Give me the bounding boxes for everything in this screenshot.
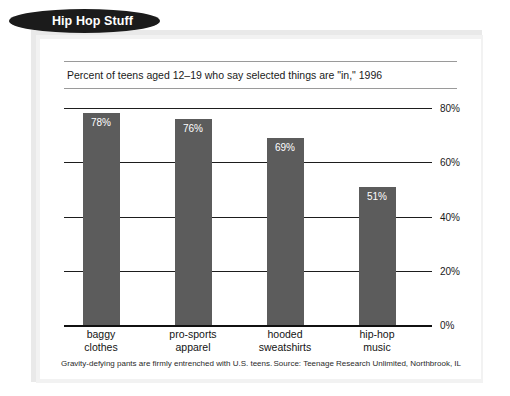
bar: 69% bbox=[267, 138, 304, 325]
title-pill: Hip Hop Stuff bbox=[9, 9, 160, 33]
category-label-line: pro-sports bbox=[145, 328, 241, 341]
bar-value-label: 76% bbox=[175, 123, 212, 134]
bar: 76% bbox=[175, 119, 212, 325]
page-title: Hip Hop Stuff bbox=[36, 14, 133, 28]
bar-value-label: 69% bbox=[267, 142, 304, 153]
plot-area: 80%60%40%20%0% 78%76%69%51% bbox=[64, 108, 457, 325]
footnote-row: Gravity-defying pants are firmly entrenc… bbox=[61, 359, 461, 368]
bar-value-label: 78% bbox=[83, 117, 120, 128]
category-label-line: clothes bbox=[53, 341, 149, 354]
category-label-line: sweatshirts bbox=[237, 341, 333, 354]
bar-series: 78%76%69%51% bbox=[64, 108, 432, 325]
bar: 78% bbox=[83, 113, 120, 325]
y-tick-label: 40% bbox=[440, 211, 460, 222]
subtitle-rule-bottom bbox=[64, 88, 457, 89]
category-label: hoodedsweatshirts bbox=[237, 328, 333, 353]
chart-figure: Percent of teens aged 12–19 who say sele… bbox=[0, 0, 510, 396]
chart-subtitle: Percent of teens aged 12–19 who say sele… bbox=[64, 62, 457, 88]
y-tick-label: 60% bbox=[440, 157, 460, 168]
y-tick-label: 0% bbox=[440, 320, 454, 331]
footnote-source: Source: Teenage Research Unlimited, Nort… bbox=[273, 359, 461, 368]
category-label-line: hip-hop bbox=[329, 328, 425, 341]
bar: 51% bbox=[359, 187, 396, 325]
category-label: hip-hopmusic bbox=[329, 328, 425, 353]
footnote-caption: Gravity-defying pants are firmly entrenc… bbox=[61, 359, 272, 368]
category-label: pro-sportsapparel bbox=[145, 328, 241, 353]
gridline-0 bbox=[64, 325, 432, 327]
category-label-line: apparel bbox=[145, 341, 241, 354]
y-tick-label: 20% bbox=[440, 265, 460, 276]
category-label-line: hooded bbox=[237, 328, 333, 341]
category-label-line: music bbox=[329, 341, 425, 354]
category-label-line: baggy bbox=[53, 328, 149, 341]
y-tick-label: 80% bbox=[440, 103, 460, 114]
category-axis: baggyclothespro-sportsapparelhoodedsweat… bbox=[64, 328, 432, 358]
subtitle-block: Percent of teens aged 12–19 who say sele… bbox=[64, 61, 457, 89]
bar-value-label: 51% bbox=[359, 191, 396, 202]
chart-card: Percent of teens aged 12–19 who say sele… bbox=[40, 39, 481, 379]
category-label: baggyclothes bbox=[53, 328, 149, 353]
